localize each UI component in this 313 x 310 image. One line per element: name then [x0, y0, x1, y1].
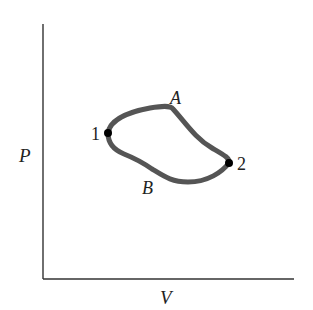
path-b-label: B	[142, 178, 153, 198]
x-axis-label: V	[160, 287, 174, 308]
y-axis-label: P	[18, 145, 31, 166]
path-b-curve	[108, 133, 229, 182]
cycle	[108, 106, 229, 182]
point-1-label: 1	[91, 124, 100, 144]
path-a-label: A	[169, 88, 182, 108]
pv-diagram: P V 1 2 A B	[0, 0, 313, 310]
axes	[43, 24, 294, 279]
point-2-label: 2	[237, 154, 246, 174]
point-2-marker	[225, 159, 233, 167]
point-1-marker	[104, 129, 112, 137]
